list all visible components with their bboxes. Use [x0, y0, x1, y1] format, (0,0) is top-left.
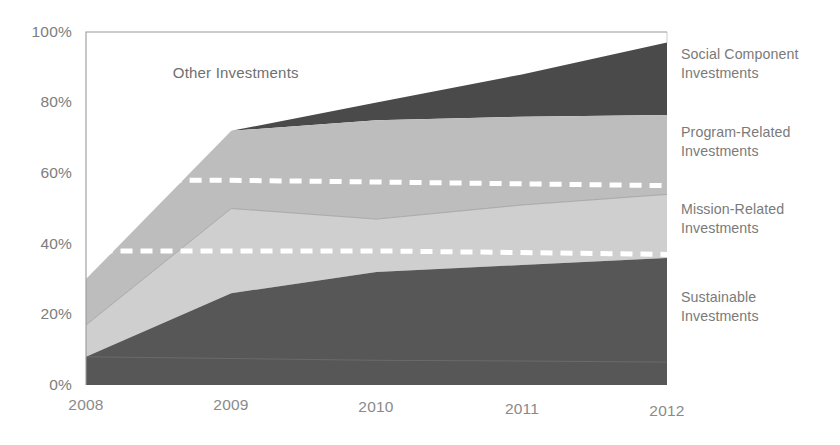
legend-label-line2: Investments [681, 219, 784, 238]
legend-item-mission-related-investments: Mission-Related Investments [681, 200, 784, 238]
legend-label-line1: Social Component [681, 45, 799, 64]
legend-label-line1: Program-Related [681, 123, 791, 142]
legend-item-sustainable-investments: Sustainable Investments [681, 288, 759, 326]
legend-label-line1: Mission-Related [681, 200, 784, 219]
x-axis-tick-2011: 2011 [492, 400, 552, 418]
legend-label-line2: Investments [681, 64, 799, 83]
annotation-other-investments: Other Investments [173, 64, 299, 81]
legend-label-line2: Investments [681, 307, 759, 326]
legend-item-program-related-investments: Program-Related Investments [681, 123, 791, 161]
legend-label-line1: Sustainable [681, 288, 759, 307]
x-axis-tick-2008: 2008 [56, 396, 116, 414]
x-axis-tick-2009: 2009 [201, 396, 261, 414]
legend-label-line2: Investments [681, 142, 791, 161]
x-axis-tick-2012: 2012 [637, 402, 697, 420]
stacked-area-chart: 100% 80% 60% 40% 20% 0% Oth [0, 0, 840, 445]
legend-item-social-component-investments: Social Component Investments [681, 45, 799, 83]
x-axis-tick-2010: 2010 [346, 398, 406, 416]
